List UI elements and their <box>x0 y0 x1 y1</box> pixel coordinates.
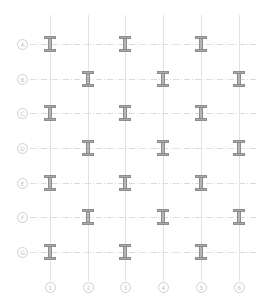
i-beam-part <box>157 153 169 156</box>
row-label-bubble: A <box>17 39 28 50</box>
column-label-bubble: 4 <box>158 282 169 293</box>
i-beam-icon <box>195 175 207 191</box>
i-beam-icon <box>157 209 169 225</box>
i-beam-part <box>123 39 127 49</box>
grid-line-row <box>30 79 256 80</box>
i-beam-part <box>195 257 207 260</box>
row-label-bubble: F <box>17 212 28 223</box>
i-beam-part <box>195 49 207 52</box>
i-beam-part <box>119 118 131 121</box>
i-beam-part <box>161 74 165 84</box>
i-beam-part <box>161 212 165 222</box>
i-beam-icon <box>119 105 131 121</box>
i-beam-icon <box>44 105 56 121</box>
grid-plan-diagram: ABCDEFG123456 <box>0 0 279 303</box>
i-beam-part <box>86 212 90 222</box>
i-beam-icon <box>44 36 56 52</box>
row-label-bubble: B <box>17 74 28 85</box>
i-beam-part <box>82 84 94 87</box>
i-beam-part <box>44 118 56 121</box>
i-beam-part <box>48 178 52 188</box>
i-beam-part <box>82 153 94 156</box>
i-beam-icon <box>82 140 94 156</box>
i-beam-part <box>199 178 203 188</box>
i-beam-icon <box>44 244 56 260</box>
grid-line-row <box>30 148 256 149</box>
i-beam-icon <box>119 175 131 191</box>
i-beam-icon <box>119 36 131 52</box>
i-beam-part <box>44 257 56 260</box>
i-beam-icon <box>119 244 131 260</box>
i-beam-part <box>161 143 165 153</box>
i-beam-part <box>199 39 203 49</box>
grid-line-row <box>30 113 256 114</box>
i-beam-part <box>44 188 56 191</box>
i-beam-part <box>157 222 169 225</box>
i-beam-part <box>48 247 52 257</box>
grid-line-row <box>30 252 256 253</box>
row-label-bubble: E <box>17 178 28 189</box>
i-beam-part <box>48 108 52 118</box>
i-beam-part <box>237 74 241 84</box>
i-beam-part <box>123 178 127 188</box>
column-label-bubble: 2 <box>83 282 94 293</box>
i-beam-part <box>119 49 131 52</box>
i-beam-icon <box>195 244 207 260</box>
i-beam-part <box>199 108 203 118</box>
i-beam-part <box>119 257 131 260</box>
column-label-bubble: 3 <box>120 282 131 293</box>
i-beam-part <box>119 188 131 191</box>
grid-line-row <box>30 44 256 45</box>
i-beam-part <box>195 118 207 121</box>
i-beam-icon <box>195 105 207 121</box>
i-beam-part <box>237 143 241 153</box>
column-label-bubble: 1 <box>45 282 56 293</box>
row-label-bubble: G <box>17 247 28 258</box>
column-label-bubble: 6 <box>234 282 245 293</box>
row-label-bubble: D <box>17 143 28 154</box>
i-beam-part <box>86 74 90 84</box>
i-beam-part <box>44 49 56 52</box>
i-beam-icon <box>233 71 245 87</box>
i-beam-part <box>123 108 127 118</box>
i-beam-part <box>195 188 207 191</box>
grid-line-row <box>30 217 256 218</box>
i-beam-part <box>86 143 90 153</box>
i-beam-part <box>48 39 52 49</box>
i-beam-icon <box>157 71 169 87</box>
i-beam-part <box>233 84 245 87</box>
i-beam-icon <box>195 36 207 52</box>
i-beam-icon <box>82 209 94 225</box>
grid-line-row <box>30 183 256 184</box>
i-beam-icon <box>157 140 169 156</box>
i-beam-icon <box>233 209 245 225</box>
i-beam-part <box>233 153 245 156</box>
row-label-bubble: C <box>17 108 28 119</box>
i-beam-part <box>237 212 241 222</box>
i-beam-part <box>157 84 169 87</box>
i-beam-icon <box>233 140 245 156</box>
i-beam-part <box>199 247 203 257</box>
i-beam-part <box>82 222 94 225</box>
i-beam-part <box>123 247 127 257</box>
column-label-bubble: 5 <box>196 282 207 293</box>
i-beam-icon <box>82 71 94 87</box>
i-beam-icon <box>44 175 56 191</box>
i-beam-part <box>233 222 245 225</box>
